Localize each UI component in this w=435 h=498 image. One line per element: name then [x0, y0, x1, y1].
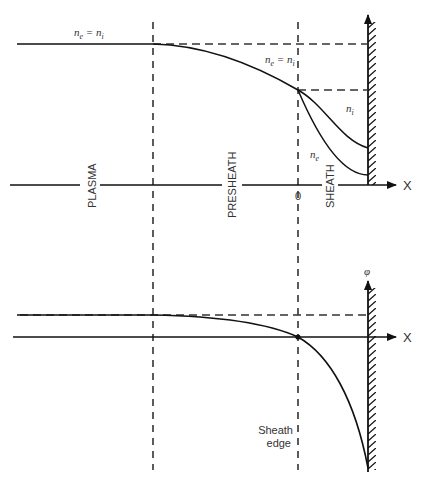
label-electron-density: ne — [310, 148, 320, 163]
cropped-caption — [8, 492, 428, 498]
sheath-edge-label-line1: Sheath — [258, 424, 293, 436]
potential-panel: φ X Sheath edge — [13, 265, 412, 472]
label-ne-equals-ni-plasma: ne = ni — [74, 26, 104, 41]
x-axis-label-top: X — [403, 178, 412, 193]
label-ne-equals-ni-presheath: ne = ni — [265, 53, 295, 68]
potential-curve — [17, 315, 368, 468]
density-panel: X PLASMA PRESHEATH SHEATH 0 ne = ni ne =… — [10, 15, 412, 218]
x-axis-label-bottom: X — [403, 330, 412, 345]
plasma-density-curve — [17, 44, 298, 90]
potential-axis-label: φ — [364, 265, 370, 277]
sheath-edge-label-line2: edge — [267, 437, 291, 449]
wall-hatching-bottom — [368, 288, 376, 470]
wall-hatching — [368, 22, 376, 185]
origin-label: 0 — [295, 190, 301, 202]
region-label-presheath: PRESHEATH — [226, 152, 238, 218]
plasma-sheath-diagram: X PLASMA PRESHEATH SHEATH 0 ne = ni ne =… — [0, 0, 435, 498]
diagram-canvas: X PLASMA PRESHEATH SHEATH 0 ne = ni ne =… — [0, 0, 435, 498]
region-label-plasma: PLASMA — [86, 163, 98, 208]
electron-density-curve — [298, 90, 368, 175]
ion-density-curve — [298, 90, 368, 148]
region-label-sheath: SHEATH — [324, 164, 336, 208]
label-ion-density: ni — [346, 102, 354, 117]
